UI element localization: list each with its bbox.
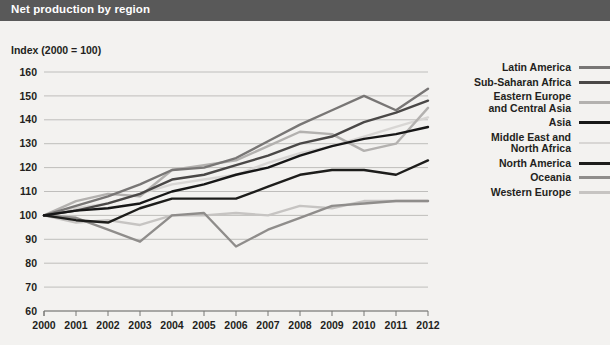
x-axis-tick-label: 2003 (128, 319, 152, 331)
x-axis-tick-label: 2004 (160, 319, 184, 331)
x-axis-tick-label: 2009 (320, 319, 344, 331)
legend-item[interactable]: Middle East and North Africa (432, 132, 610, 155)
y-axis-tick-label: 100 (19, 209, 37, 221)
title-bar: Net production by region (0, 0, 610, 21)
legend-item[interactable]: Latin America (432, 62, 610, 74)
legend-color-swatch (579, 158, 610, 169)
chart-plot-area: 1601501401301201101009080706020002001200… (0, 60, 440, 345)
legend-color-swatch (579, 187, 610, 198)
legend-color-swatch (579, 172, 610, 183)
legend-item[interactable]: Sub-Saharan Africa (432, 77, 610, 89)
legend-item[interactable]: Asia (432, 117, 610, 129)
legend-color-swatch (579, 77, 610, 88)
chart-legend: Latin AmericaSub-Saharan AfricaEastern E… (432, 62, 610, 201)
legend-item-label: Middle East and North Africa (491, 132, 571, 155)
legend-item-label: Latin America (502, 62, 571, 74)
legend-item-label: Sub-Saharan Africa (474, 77, 571, 89)
y-axis-tick-label: 60 (25, 305, 37, 317)
x-axis-tick-label: 2007 (256, 319, 280, 331)
x-axis-tick-label: 2010 (352, 319, 376, 331)
legend-item[interactable]: Oceania (432, 172, 610, 184)
y-axis-tick-label: 110 (20, 185, 37, 197)
y-axis-title: Index (2000 = 100) (11, 44, 101, 56)
legend-item-label: Eastern Europe and Central Asia (489, 91, 571, 114)
x-axis-tick-label: 2002 (96, 319, 120, 331)
y-axis-tick-label: 70 (25, 281, 37, 293)
legend-item[interactable]: North America (432, 158, 610, 170)
x-axis-tick-label: 2006 (224, 319, 248, 331)
y-axis-tick-label: 140 (19, 113, 37, 125)
y-axis-tick-label: 150 (19, 90, 37, 102)
page-title: Net production by region (11, 3, 150, 15)
x-axis-tick-label: 2000 (32, 319, 56, 331)
legend-color-swatch (579, 138, 610, 149)
x-axis-tick-label: 2001 (64, 319, 88, 331)
x-axis-tick-label: 2012 (416, 319, 440, 331)
y-axis-tick-label: 160 (19, 66, 37, 78)
x-axis-tick-label: 2011 (385, 319, 408, 331)
legend-item[interactable]: Eastern Europe and Central Asia (432, 91, 610, 114)
y-axis-tick-label: 130 (19, 137, 37, 149)
legend-color-swatch (579, 117, 610, 128)
y-axis-tick-label: 80 (25, 257, 37, 269)
legend-item[interactable]: Western Europe (432, 187, 610, 199)
y-axis-tick-label: 120 (19, 161, 37, 173)
legend-color-swatch (579, 97, 610, 108)
x-axis-tick-label: 2008 (288, 319, 312, 331)
x-axis-tick-label: 2005 (192, 319, 216, 331)
legend-item-label: North America (499, 158, 571, 170)
legend-item-label: Oceania (530, 172, 571, 184)
legend-item-label: Asia (549, 117, 571, 129)
line-chart: 1601501401301201101009080706020002001200… (0, 60, 440, 345)
legend-color-swatch (579, 62, 610, 73)
y-axis-tick-label: 90 (25, 233, 37, 245)
legend-item-label: Western Europe (491, 187, 571, 199)
